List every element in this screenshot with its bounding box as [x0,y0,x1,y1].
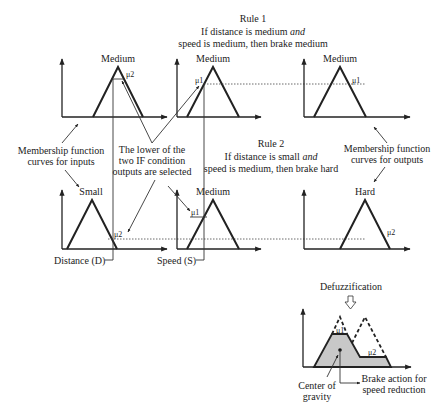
outputs-annotation-line2: curves for outputs [351,154,423,165]
inputs-arrow-down [65,170,79,187]
rule2-speed-graph: Medium μ1 [177,186,261,249]
rule2-output-graph: Hard μ2 [304,186,410,249]
brake-label-line1: Brake action for [362,373,428,384]
defuzz-mu1: μ1 [336,326,344,335]
rule1-speed-set-label: Medium [196,53,230,64]
rule2-condition-line1: If distance is small and [225,151,319,162]
rule2-speed-mu: μ1 [191,208,199,217]
inputs-annotation: Membership function curves for inputs [18,124,104,187]
rule1-output-mu: μ1 [352,76,360,85]
rule1-header: Rule 1 If distance is medium and speed i… [178,13,328,49]
defuzzification-panel: Defuzzification μ1 μ2 Center of gravity … [298,281,427,402]
rule2-output-mu: μ2 [387,228,395,237]
defuzz-down-arrow-icon [345,296,356,309]
outputs-annotation: Membership function curves for outputs [344,127,430,182]
rule2-header: Rule 2 If distance is small and speed is… [204,138,338,174]
rule1-distance-mu: μ2 [126,70,134,79]
defuzzification-title: Defuzzification [320,281,382,292]
rule1-output-graph: Medium μ1 [304,53,410,117]
distance-axis-label: Distance (D) [54,255,105,267]
cog-label-line1: Center of [298,380,336,391]
rule1-title: Rule 1 [240,13,266,24]
lower-annotation-line3: outputs are selected [113,166,192,177]
cog-label-line2: gravity [303,391,331,402]
fuzzy-inference-diagram: Rule 1 If distance is medium and speed i… [0,0,447,419]
rule1-output-set-label: Medium [323,53,357,64]
rule1-distance-set-label: Medium [101,53,135,64]
speed-axis-label: Speed (S) [157,255,196,267]
rule1-condition-line2: speed is medium, then brake medium [178,38,328,49]
lower-annotation-line2: two IF condition [119,155,186,166]
rule1-distance-graph: Medium μ2 [62,53,167,117]
rule2-distance-mu: μ2 [114,230,122,239]
aggregated-output-area [314,334,391,367]
rule2-condition-line2: speed is medium, then brake hard [204,163,338,174]
rule2-speed-set-label: Medium [196,186,230,197]
defuzz-mu2: μ2 [368,348,376,357]
inputs-annotation-line2: curves for inputs [27,156,94,167]
lower-annotation-line1: The lower of the [119,144,186,155]
outputs-arrow-down [374,167,385,182]
lower-selection-annotation: The lower of the two IF condition output… [113,81,199,232]
rule2-output-set-label: Hard [355,186,375,197]
rule2-distance-set-label: Small [79,186,103,197]
inputs-annotation-line1: Membership function [18,145,104,156]
brake-label-line2: speed reduction [362,384,425,395]
rule1-condition-line1: If distance is medium and [201,26,306,37]
rule2-title: Rule 2 [258,138,284,149]
inputs-arrow-up [62,124,78,143]
rule1-speed-mu: μ1 [195,76,203,85]
outputs-arrow-up [374,127,387,143]
outputs-annotation-line1: Membership function [344,143,430,154]
